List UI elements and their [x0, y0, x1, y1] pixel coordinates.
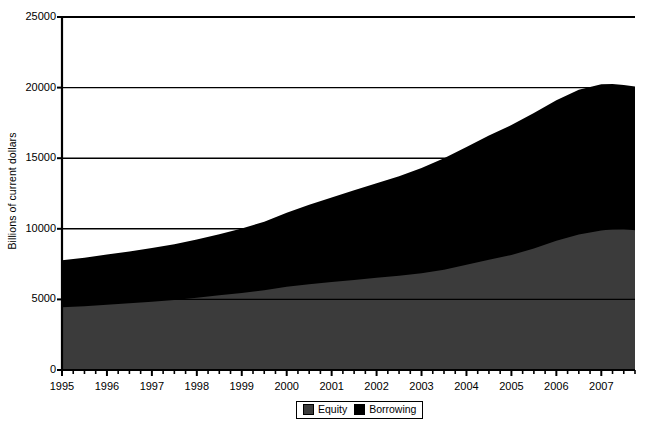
- x-axis-tick-label: 1996: [85, 381, 129, 392]
- plot-area: [0, 0, 647, 427]
- y-axis-tick-label: 10000: [10, 223, 56, 234]
- y-axis-tick-label: 15000: [10, 152, 56, 163]
- x-axis-tick-label: 2000: [265, 381, 309, 392]
- x-axis-tick-label: 2002: [355, 381, 399, 392]
- x-axis-tick-label: 2004: [444, 381, 488, 392]
- x-axis-tick-label: 2003: [400, 381, 444, 392]
- x-axis-tick-label: 2001: [310, 381, 354, 392]
- x-axis-tick-label: 2005: [489, 381, 533, 392]
- stacked-area-chart: Billions of current dollars 050001000015…: [0, 0, 647, 427]
- legend-item[interactable]: Equity: [303, 404, 347, 415]
- legend-label: Equity: [318, 404, 347, 415]
- legend-label: Borrowing: [369, 404, 416, 415]
- x-axis-tick-label: 1998: [175, 381, 219, 392]
- y-axis-tick-label: 20000: [10, 82, 56, 93]
- x-axis-tick-label: 1995: [40, 381, 84, 392]
- legend-swatch-icon: [303, 404, 314, 415]
- y-axis-title: Billions of current dollars: [6, 91, 18, 291]
- y-axis-tick-label: 0: [10, 364, 56, 375]
- x-axis-tick-label: 2006: [534, 381, 578, 392]
- x-axis-tick-label: 1999: [220, 381, 264, 392]
- y-axis-tick-label: 25000: [10, 11, 56, 22]
- chart-legend: EquityBorrowing: [296, 401, 423, 419]
- legend-item[interactable]: Borrowing: [354, 404, 416, 415]
- x-axis-tick-label: 2007: [579, 381, 623, 392]
- x-axis-tick-label: 1997: [130, 381, 174, 392]
- y-axis-tick-label: 5000: [10, 293, 56, 304]
- legend-swatch-icon: [354, 404, 365, 415]
